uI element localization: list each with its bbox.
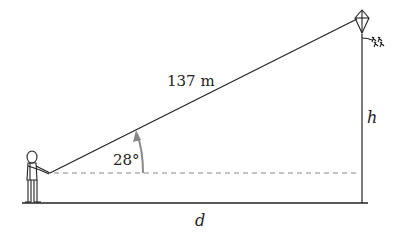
distance-label: d <box>195 211 205 230</box>
angle-label: 28° <box>113 151 140 169</box>
kite-string <box>50 19 357 173</box>
string-length-label: 137 m <box>167 72 215 90</box>
kite-icon <box>355 10 384 47</box>
height-label: h <box>367 108 377 127</box>
kite-diagram: 137 m 28° h d <box>0 0 413 246</box>
person-icon <box>25 151 50 202</box>
